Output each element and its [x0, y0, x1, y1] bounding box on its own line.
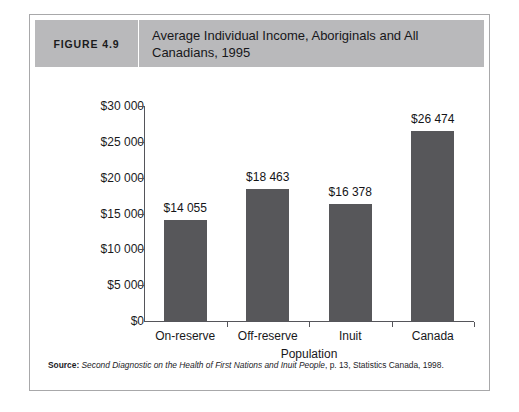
bar: [411, 131, 454, 321]
source-title: Second Diagnostic on the Health of First…: [82, 360, 325, 370]
y-axis-tick-label: $0: [131, 314, 144, 328]
x-axis-tick-mark: [309, 322, 310, 327]
x-axis-tick-mark: [227, 322, 228, 327]
bar-value-label: $26 474: [411, 112, 454, 126]
x-axis-category-label: Inuit: [339, 329, 362, 343]
y-axis-tick-label: $10 000: [101, 242, 144, 256]
y-axis-tick-label: $25 000: [101, 135, 144, 149]
figure-title: Average Individual Income, Aboriginals a…: [152, 27, 474, 61]
source-note: Source: Second Diagnostic on the Health …: [48, 359, 478, 371]
y-axis-tick-mark: [139, 285, 145, 286]
bar-value-label: $16 378: [329, 185, 372, 199]
figure-title-cell: Average Individual Income, Aboriginals a…: [139, 20, 484, 67]
y-axis-tick-mark: [139, 142, 145, 143]
source-label: Source:: [48, 360, 79, 370]
y-axis-tick-label: $20 000: [101, 171, 144, 185]
x-axis-tick-mark: [392, 322, 393, 327]
source-citation: , p. 13, Statistics Canada, 1998.: [325, 360, 444, 370]
y-axis-tick-label: $15 000: [101, 207, 144, 221]
y-axis-tick-mark: [139, 249, 145, 250]
chart-axes: $14 055On-reserve$18 463Off-reserve$16 3…: [144, 75, 474, 365]
y-axis-tick-mark: [139, 214, 145, 215]
figure-number-label: FIGURE 4.9: [53, 38, 119, 50]
figure-container: FIGURE 4.9 Average Individual Income, Ab…: [29, 14, 490, 391]
x-axis-category-label: Canada: [412, 329, 454, 343]
x-axis-category-label: On-reserve: [155, 329, 215, 343]
y-axis-tick-mark: [139, 178, 145, 179]
bar: [246, 189, 289, 321]
figure-header-band: FIGURE 4.9 Average Individual Income, Ab…: [35, 20, 484, 67]
bar-value-label: $18 463: [246, 170, 289, 184]
bar-value-label: $14 055: [164, 201, 207, 215]
y-axis-tick-mark: [139, 106, 145, 107]
x-axis-category-label: Off-reserve: [238, 329, 298, 343]
figure-number-cell: FIGURE 4.9: [35, 20, 139, 67]
x-axis-tick-mark: [474, 322, 475, 327]
chart-plot-region: $0$5 000$10 000$15 000$20 000$25 000$30 …: [30, 75, 489, 365]
bar: [329, 204, 372, 321]
y-axis-tick-labels: $0$5 000$10 000$15 000$20 000$25 000$30 …: [30, 75, 144, 365]
y-axis-tick-label: $30 000: [101, 99, 144, 113]
bar: [164, 220, 207, 321]
